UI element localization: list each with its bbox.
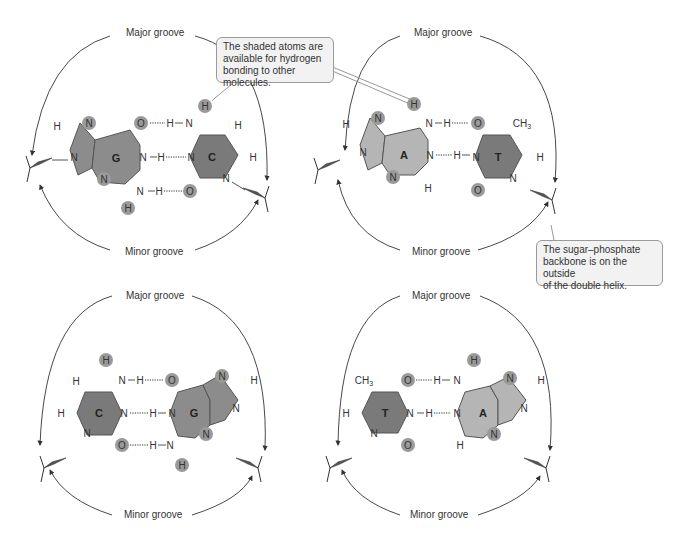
svg-text:N: N xyxy=(139,152,146,163)
major-groove-label: Major groove xyxy=(126,27,185,38)
svg-text:H: H xyxy=(250,375,257,386)
svg-text:H: H xyxy=(342,408,349,419)
svg-text:O: O xyxy=(168,375,176,386)
svg-text:N: N xyxy=(374,113,381,124)
svg-text:N: N xyxy=(120,408,127,419)
svg-text:N: N xyxy=(202,429,209,440)
svg-text:N: N xyxy=(185,118,192,129)
svg-text:H: H xyxy=(53,121,60,132)
svg-text:N: N xyxy=(472,152,479,163)
svg-text:H: H xyxy=(537,375,544,386)
svg-text:N: N xyxy=(136,186,143,197)
svg-text:H: H xyxy=(124,203,131,214)
svg-text:N: N xyxy=(83,428,90,439)
svg-text:H: H xyxy=(166,118,173,129)
panel-t-a: Major groove Minor groove T CH3 H N O H … xyxy=(326,290,551,520)
sugar-phosphate-right xyxy=(243,186,269,212)
base-t: T xyxy=(495,151,502,163)
svg-text:N: N xyxy=(509,173,516,184)
base-t: T xyxy=(382,407,389,419)
svg-text:N: N xyxy=(166,440,173,451)
svg-text:O: O xyxy=(404,375,412,386)
svg-text:N: N xyxy=(218,371,225,382)
svg-text:Major groove: Major groove xyxy=(126,290,185,301)
panel-c-g: Major groove Minor groove C H H H N N H … xyxy=(40,290,265,520)
svg-text:N: N xyxy=(168,408,175,419)
base-c: C xyxy=(208,151,216,163)
svg-text:N: N xyxy=(425,118,432,129)
svg-text:N: N xyxy=(490,429,497,440)
svg-text:H: H xyxy=(425,408,432,419)
svg-text:N: N xyxy=(222,173,229,184)
svg-text:N: N xyxy=(85,118,92,129)
svg-text:H: H xyxy=(456,440,463,451)
svg-text:Minor groove: Minor groove xyxy=(412,246,471,257)
svg-text:Major groove: Major groove xyxy=(412,290,471,301)
svg-text:N: N xyxy=(370,428,377,439)
svg-text:H: H xyxy=(424,183,431,194)
svg-text:H: H xyxy=(234,120,241,131)
svg-text:H: H xyxy=(157,152,164,163)
svg-text:H: H xyxy=(57,408,64,419)
svg-text:H: H xyxy=(470,355,477,366)
base-a: A xyxy=(400,149,408,161)
callout-shaded-atoms: The shaded atoms are available for hydro… xyxy=(216,37,334,83)
panel-a-t: Major groove Minor groove N N H N A H N … xyxy=(314,27,556,257)
svg-text:N: N xyxy=(70,152,77,163)
svg-text:H: H xyxy=(149,440,156,451)
svg-text:N: N xyxy=(520,403,527,414)
base-c: C xyxy=(95,407,103,419)
svg-text:O: O xyxy=(118,440,126,451)
svg-text:H: H xyxy=(102,355,109,366)
svg-text:O: O xyxy=(186,186,194,197)
svg-text:Minor groove: Minor groove xyxy=(410,509,469,520)
svg-text:H: H xyxy=(155,186,162,197)
base-g: G xyxy=(190,407,199,419)
svg-text:H: H xyxy=(249,152,256,163)
svg-text:Major groove: Major groove xyxy=(414,27,473,38)
svg-text:H: H xyxy=(178,460,185,471)
svg-text:H: H xyxy=(453,150,460,161)
svg-text:N: N xyxy=(506,373,513,384)
svg-text:N: N xyxy=(426,150,433,161)
svg-text:Minor groove: Minor groove xyxy=(124,509,183,520)
svg-text:N: N xyxy=(453,408,460,419)
svg-text:H: H xyxy=(72,376,79,387)
base-a: A xyxy=(479,407,487,419)
svg-text:N: N xyxy=(453,375,460,386)
sugar-phosphate-left xyxy=(26,156,52,182)
svg-text:CH3: CH3 xyxy=(355,375,373,387)
svg-text:H: H xyxy=(536,152,543,163)
svg-text:O: O xyxy=(404,440,412,451)
svg-text:H: H xyxy=(443,118,450,129)
svg-text:H: H xyxy=(201,101,208,112)
svg-text:O: O xyxy=(474,118,482,129)
svg-text:N: N xyxy=(359,147,366,158)
svg-text:CH3: CH3 xyxy=(513,118,531,130)
svg-text:N: N xyxy=(118,375,125,386)
svg-text:H: H xyxy=(136,375,143,386)
svg-text:N: N xyxy=(389,172,396,183)
svg-text:H: H xyxy=(433,375,440,386)
svg-text:O: O xyxy=(474,185,482,196)
svg-text:N: N xyxy=(232,403,239,414)
svg-text:H: H xyxy=(149,408,156,419)
svg-text:N: N xyxy=(100,174,107,185)
base-g: G xyxy=(112,152,121,164)
svg-text:N: N xyxy=(187,152,194,163)
callout-backbone: The sugar–phosphate backbone is on the o… xyxy=(536,240,663,286)
svg-text:H: H xyxy=(342,119,349,130)
minor-groove-label: Minor groove xyxy=(125,246,184,257)
svg-text:N: N xyxy=(406,408,413,419)
svg-text:O: O xyxy=(137,118,145,129)
